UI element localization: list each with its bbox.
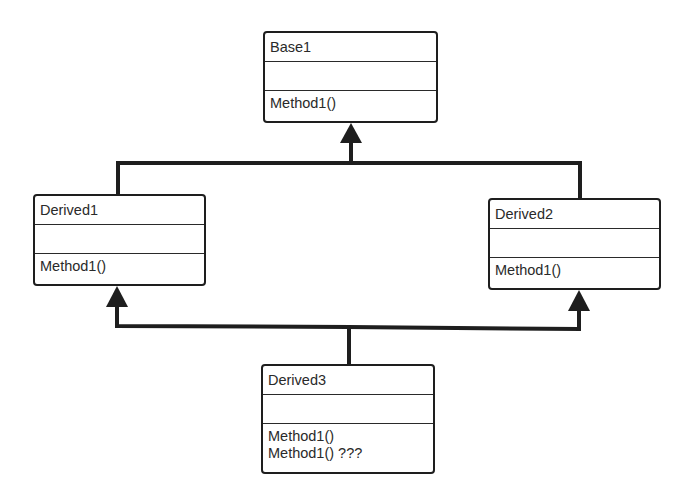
class-name: Base1 [265,33,436,62]
class-methods: Method1() [490,258,659,288]
class-box-derived2[interactable]: Derived2 Method1() [488,198,661,290]
class-box-derived3[interactable]: Derived3 Method1() Method1() ??? [261,364,435,474]
connector-derived3-to-derived2 [349,308,579,329]
connector-derived1-to-base1 [118,163,351,194]
method: Method1() [40,258,199,275]
method: Method1() [495,262,654,279]
method: Method1() [270,95,431,112]
class-name: Derived2 [490,200,659,229]
class-attributes [490,229,659,258]
inheritance-arrowhead-derived1 [106,286,128,307]
class-box-base1[interactable]: Base1 Method1() [263,31,438,123]
class-box-derived1[interactable]: Derived1 Method1() [33,194,206,286]
class-methods: Method1() Method1() ??? [263,424,433,472]
class-methods: Method1() [265,91,436,121]
method: Method1() [268,428,428,445]
connector-derived3-to-derived1 [117,304,349,327]
class-attributes [263,395,433,424]
class-attributes [265,62,436,91]
inheritance-arrowhead-base1 [340,123,362,143]
inheritance-arrowhead-derived2 [568,290,590,311]
class-methods: Method1() [35,254,204,284]
class-name: Derived1 [35,196,204,225]
connector-derived2-to-base1 [351,163,580,198]
method-ambiguous: Method1() ??? [268,445,428,462]
class-attributes [35,225,204,254]
class-name: Derived3 [263,366,433,395]
